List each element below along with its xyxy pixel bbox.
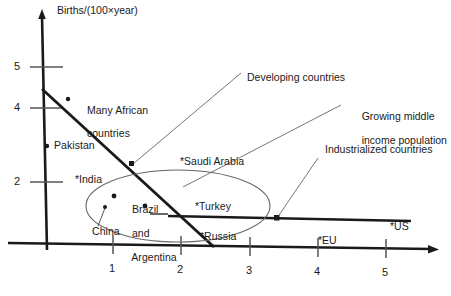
point-label-african-line1: Many African (87, 104, 148, 116)
point-label-russia: *Russia (188, 219, 236, 254)
x-tick-label-4: 4 (314, 265, 320, 277)
annotation-developing-countries: Developing countries (247, 71, 345, 83)
point-label-india: *India (63, 162, 102, 197)
point-label-india-text: India (79, 173, 102, 185)
point-label-us-text: US (394, 220, 409, 232)
point-marker-china (103, 205, 107, 209)
point-label-eu: *EU (306, 223, 337, 258)
point-label-brazil-line1: Brazil (132, 203, 159, 215)
scatter-chart-figure: Births/(100×year) 5 4 2 1 2 3 4 5 Many A… (0, 0, 451, 296)
point-label-turkey-text: Turkey (199, 200, 231, 212)
point-label-brazil-and-argentina: Brazil and Argentina (120, 191, 177, 275)
annotation-industrialized-countries: Industrialized countries (325, 143, 432, 155)
x-tick-label-2: 2 (177, 263, 183, 275)
point-marker-brazil (112, 194, 117, 199)
developing-anchor-marker (129, 161, 134, 166)
point-label-african-line2: countries (87, 127, 130, 139)
y-axis (38, 9, 47, 250)
y-axis-ticks (30, 67, 63, 182)
point-marker-many-african-countries (66, 97, 70, 101)
y-tick-label-4: 4 (14, 101, 20, 113)
point-label-us: *US (378, 209, 409, 244)
point-label-china: China (92, 226, 120, 238)
point-label-brazil-line3: Argentina (131, 251, 176, 263)
industrialized-anchor-marker (274, 215, 280, 221)
point-marker-pakistan (45, 144, 49, 148)
y-axis-title: Births/(100×year) (57, 4, 138, 16)
point-label-saudi-text: Saudi Arabia (184, 155, 244, 167)
y-tick-label-5: 5 (14, 60, 20, 72)
industrialized-leader-line (277, 158, 318, 218)
point-label-brazil-line2: and (132, 227, 150, 239)
x-tick-label-1: 1 (109, 262, 115, 274)
point-label-eu-text: EU (322, 234, 337, 246)
point-label-saudi-arabia: *Saudi Arabia (168, 144, 244, 179)
china-leader-line (98, 208, 105, 226)
annotation-growing-line1: Growing middle (362, 110, 435, 122)
y-tick-label-2: 2 (14, 175, 20, 187)
x-tick-label-5: 5 (382, 266, 388, 278)
point-label-russia-text: Russia (204, 230, 236, 242)
point-label-pakistan: Pakistan (54, 140, 95, 152)
x-tick-label-3: 3 (246, 264, 252, 276)
